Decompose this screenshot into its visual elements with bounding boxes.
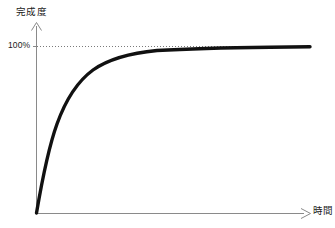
chart-container: 完成度 時間 100% [0,0,335,228]
y-axis-tick-label-100: 100% [8,41,30,50]
completion-curve [37,47,311,213]
chart-canvas [0,0,335,228]
x-axis [37,209,311,219]
x-axis-title: 時間 [313,206,334,216]
y-axis-title: 完成度 [16,7,47,17]
